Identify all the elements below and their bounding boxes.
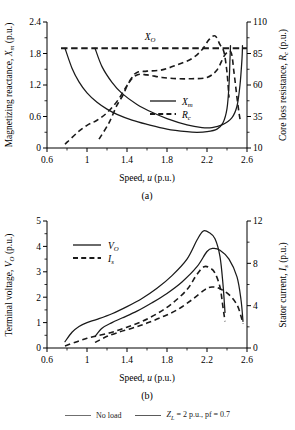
tick-label: 60 [253, 80, 263, 90]
chart-b-caption: (b) [141, 390, 153, 402]
chart-a-legend: Xm Rc [150, 97, 193, 121]
tick-label: 1.2 [29, 80, 41, 90]
chart-a-legend-xm-label: Xm [181, 97, 193, 108]
chart-b-legend: VO Is [73, 241, 119, 265]
tick-label: 1 [36, 318, 41, 328]
tick-label: 1 [85, 355, 90, 365]
figure-page: 0.611.41.82.22.600.61.21.82.410356085110… [0, 0, 295, 430]
chart-b-legend-vo-label: VO [108, 241, 119, 252]
chart-a-container: 0.611.41.82.22.600.61.21.82.410356085110… [0, 0, 295, 215]
chart-b-curves [65, 231, 243, 346]
tick-label: 2 [36, 293, 41, 303]
tick-label: 2.4 [29, 17, 41, 27]
chart-a-svg: 0.611.41.82.22.600.61.21.82.410356085110… [0, 0, 295, 215]
tick-label: 4 [253, 301, 258, 311]
tick-label: 0.6 [41, 355, 53, 365]
chart-a-xaxis-title: Speed, u (p.u.) [119, 173, 175, 184]
bottom-legend-item-loaded: ZL = 2 p.u., pf = 0.7 [135, 410, 230, 421]
chart-a-legend-rc-label: Rc [181, 110, 191, 121]
tick-label: 0.6 [29, 112, 41, 122]
tick-label: 2.2 [201, 155, 213, 165]
tick-label: 1.4 [121, 355, 133, 365]
tick-label: 1.4 [121, 155, 133, 165]
tick-label: 0 [36, 143, 41, 153]
tick-label: 8 [253, 259, 258, 269]
chart-b-right-axis-title: Stator current, Is (p.u.) [278, 242, 289, 328]
tick-label: 0 [36, 343, 41, 353]
figure-bottom-legend: No load ZL = 2 p.u., pf = 0.7 [0, 404, 295, 426]
tick-label: 110 [253, 17, 267, 27]
series-curve [95, 46, 243, 128]
chart-b-legend-is-label: Is [107, 254, 114, 265]
chart-a-xo-sub: O [150, 36, 155, 43]
tick-label: 0 [253, 343, 258, 353]
series-curve [65, 46, 231, 133]
tick-label: 35 [253, 112, 263, 122]
series-curve [65, 231, 225, 342]
tick-label: 5 [36, 216, 41, 226]
loaded-label: ZL = 2 p.u., pf = 0.7 [166, 410, 230, 421]
tick-label: 4 [36, 242, 41, 252]
tick-label: 3 [36, 267, 41, 277]
no-load-line-swatch [65, 415, 91, 416]
tick-label: 1 [85, 155, 90, 165]
chart-a-xo-annotation: XO [144, 32, 156, 43]
tick-label: 2.6 [241, 155, 253, 165]
tick-label: 2.6 [241, 355, 253, 365]
tick-label: 1.8 [161, 355, 173, 365]
chart-a-caption: (a) [141, 190, 152, 202]
chart-b-xaxis-title: Speed, u (p.u.) [119, 373, 175, 384]
loaded-line-swatch [135, 415, 161, 416]
tick-label: 1.8 [161, 155, 173, 165]
chart-a-right-axis-title: Core loss resistance, Rc (p.u.) [278, 29, 289, 141]
no-load-label: No load [96, 411, 122, 420]
tick-label: 1.8 [29, 49, 41, 59]
chart-b-left-axis-title: Terminal voltage, VO (p.u.) [4, 234, 15, 337]
tick-label: 12 [253, 216, 263, 226]
chart-b-svg: 0.611.41.82.22.601234504812 VO Is Speed,… [0, 213, 295, 430]
tick-label: 85 [253, 49, 263, 59]
chart-b-ticks: 0.611.41.82.22.601234504812 [36, 216, 263, 365]
chart-b-container: 0.611.41.82.22.601234504812 VO Is Speed,… [0, 213, 295, 430]
chart-a-left-axis-title: Magnetizing reactance, Xm (p.u.) [4, 23, 15, 148]
bottom-legend-item-no-load: No load [65, 411, 122, 420]
chart-a-curves [61, 36, 247, 145]
tick-label: 10 [253, 143, 263, 153]
tick-label: 0.6 [41, 155, 53, 165]
tick-label: 2.2 [201, 355, 213, 365]
